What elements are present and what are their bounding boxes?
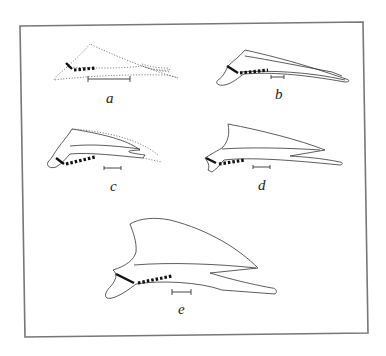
panel-label-a: a <box>106 90 114 106</box>
wing-outline-a <box>54 44 178 80</box>
wing-inner-d <box>222 148 320 150</box>
panel-label-e: e <box>178 301 185 317</box>
panel-d: d <box>205 124 342 193</box>
wing-inner-e <box>134 264 256 268</box>
panel-c: c <box>47 129 162 194</box>
wing-outline-e <box>105 218 276 298</box>
segments-a <box>74 68 95 70</box>
panel-label-d: d <box>258 177 266 193</box>
segments-c <box>66 157 95 164</box>
bone-c <box>56 158 64 164</box>
bone-a <box>66 63 72 69</box>
panel-a: a <box>54 44 178 106</box>
panel-e: e <box>105 218 276 317</box>
wing-inner-c <box>70 145 140 149</box>
diagram-figure: a b c d <box>0 0 386 356</box>
panel-label-b: b <box>275 86 283 102</box>
wing-outline-b <box>217 50 349 85</box>
wing-slot-a <box>142 64 170 70</box>
panel-b: b <box>217 50 349 102</box>
bone-e <box>116 274 134 283</box>
bone-b <box>227 66 238 73</box>
panel-label-c: c <box>110 178 117 194</box>
